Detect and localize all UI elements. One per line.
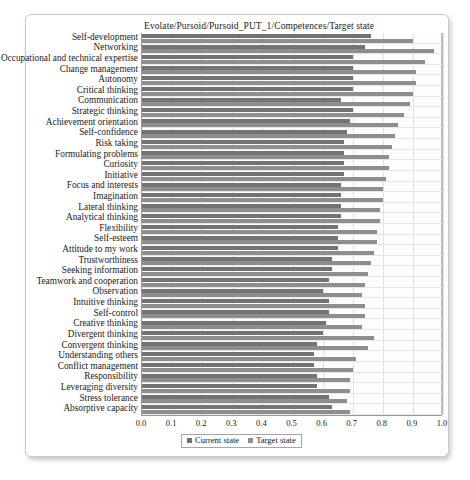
- bar-current-state: [142, 45, 365, 49]
- bar-current-state: [142, 236, 338, 240]
- bar-target-state: [142, 49, 434, 53]
- legend-item-target-state: Target state: [248, 436, 296, 445]
- bar-current-state: [142, 119, 350, 123]
- category-label: Initiative: [104, 171, 138, 180]
- bar-target-state: [142, 251, 374, 255]
- x-axis-tick-label: 1.0: [437, 418, 448, 428]
- category-label: Self-development: [72, 33, 138, 42]
- x-axis-tick-label: 0.7: [346, 418, 357, 428]
- bar-row: Trustworthiness: [142, 256, 442, 267]
- x-axis-tick-label: 0.0: [136, 418, 147, 428]
- figure-page: Evolate/Pursoid/Pursoid_PUT_1/Competence…: [0, 0, 470, 480]
- category-label: Seeking information: [62, 267, 138, 276]
- bar-target-state: [142, 166, 389, 170]
- bar-row: Networking: [142, 44, 442, 55]
- category-label: Analytical thinking: [66, 214, 138, 223]
- bar-current-state: [142, 193, 341, 197]
- bar-target-state: [142, 219, 380, 223]
- category-label: Risk taking: [95, 139, 138, 148]
- bar-row: Autonomy: [142, 75, 442, 86]
- bar-row: Risk taking: [142, 139, 442, 150]
- bar-target-state: [142, 39, 413, 43]
- bar-current-state: [142, 310, 329, 314]
- chart-title: Evolate/Pursoid/Pursoid_PUT_1/Competence…: [144, 21, 374, 31]
- bar-row: Divergent thinking: [142, 330, 442, 341]
- legend-label-current-state: Current state: [195, 436, 239, 445]
- legend-swatch-current-icon: [187, 438, 192, 443]
- bar-target-state: [142, 60, 425, 64]
- bar-row: Understanding others: [142, 351, 442, 362]
- category-label: Lateral thinking: [78, 203, 138, 212]
- bar-target-state: [142, 389, 350, 393]
- bar-current-state: [142, 246, 338, 250]
- bar-target-state: [142, 134, 395, 138]
- category-label: Formulating problems: [55, 150, 138, 159]
- bar-row: Formulating problems: [142, 150, 442, 161]
- x-axis-tick-label: 0.9: [407, 418, 418, 428]
- bar-target-state: [142, 123, 398, 127]
- bar-row: Seeking information: [142, 266, 442, 277]
- bar-row: Observation: [142, 288, 442, 299]
- category-label: Convergent thinking: [61, 341, 138, 350]
- bar-current-state: [142, 66, 353, 70]
- chart-legend: Current state Target state: [181, 434, 302, 448]
- bar-current-state: [142, 140, 344, 144]
- category-label: Focus and interests: [67, 182, 138, 191]
- bar-target-state: [142, 272, 368, 276]
- category-label: Flexibility: [99, 224, 138, 233]
- bar-row: Strategic thinking: [142, 107, 442, 118]
- bar-current-state: [142, 183, 341, 187]
- bar-current-state: [142, 384, 317, 388]
- bar-row: Self-esteem: [142, 235, 442, 246]
- bar-row: Critical thinking: [142, 86, 442, 97]
- bar-target-state: [142, 230, 377, 234]
- bar-target-state: [142, 378, 350, 382]
- bar-row: Flexibility: [142, 224, 442, 235]
- category-label: Absorptive capacity: [63, 405, 138, 414]
- bar-row: Initiative: [142, 171, 442, 182]
- x-axis-tick-label: 0.5: [286, 418, 297, 428]
- category-label: Creative thinking: [73, 320, 138, 329]
- bar-row: Lateral thinking: [142, 203, 442, 214]
- bar-target-state: [142, 208, 380, 212]
- bar-current-state: [142, 172, 344, 176]
- bar-target-state: [142, 357, 356, 361]
- category-label: Intuitive thinking: [73, 298, 138, 307]
- bar-target-state: [142, 336, 374, 340]
- bar-current-state: [142, 374, 317, 378]
- bar-row: Self-confidence: [142, 129, 442, 140]
- bar-current-state: [142, 87, 353, 91]
- bar-current-state: [142, 151, 344, 155]
- category-label: Networking: [94, 44, 138, 53]
- legend-swatch-target-icon: [248, 438, 253, 443]
- bar-current-state: [142, 405, 332, 409]
- legend-label-target-state: Target state: [256, 436, 296, 445]
- category-label: Achievement orientation: [46, 118, 138, 127]
- bar-target-state: [142, 70, 416, 74]
- bar-row: Self-development: [142, 33, 442, 44]
- bar-row: Intuitive thinking: [142, 298, 442, 309]
- bar-current-state: [142, 395, 329, 399]
- bar-row: Stress tolerance: [142, 394, 442, 405]
- category-label: Autonomy: [98, 76, 138, 85]
- bar-target-state: [142, 187, 383, 191]
- x-axis-tick-label: 0.8: [376, 418, 387, 428]
- category-label: Imagination: [93, 192, 138, 201]
- chart-inner: Evolate/Pursoid/Pursoid_PUT_1/Competence…: [26, 15, 448, 456]
- bar-current-state: [142, 76, 353, 80]
- category-label: Occupational and technical expertise: [1, 54, 138, 63]
- bar-row: Responsibility: [142, 373, 442, 384]
- bar-target-state: [142, 240, 377, 244]
- bar-row: Change management: [142, 65, 442, 76]
- chart-card: Evolate/Pursoid/Pursoid_PUT_1/Competence…: [25, 14, 449, 457]
- bar-target-state: [142, 155, 389, 159]
- bar-row: Achievement orientation: [142, 118, 442, 129]
- bar-target-state: [142, 261, 371, 265]
- bar-target-state: [142, 368, 353, 372]
- bar-target-state: [142, 304, 365, 308]
- bar-current-state: [142, 321, 326, 325]
- bar-row: Conflict management: [142, 362, 442, 373]
- bar-row: Communication: [142, 97, 442, 108]
- bar-row: Focus and interests: [142, 182, 442, 193]
- x-axis-tick-label: 0.6: [316, 418, 327, 428]
